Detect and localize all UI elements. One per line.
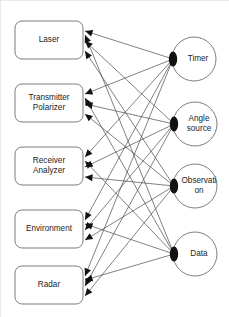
node-box-environment[interactable]: Environment xyxy=(15,210,83,248)
box-label-environment: Environment xyxy=(26,224,73,233)
edge-timer-to-transmitter-polarizer xyxy=(85,59,173,94)
node-box-laser[interactable]: Laser xyxy=(15,21,83,59)
box-label-radar: Radar xyxy=(38,280,61,289)
box-label-transmitter-polarizer: Transmitter xyxy=(28,93,69,102)
edge-observation-to-receiver-analyzer xyxy=(85,177,174,186)
edge-data-to-environment xyxy=(85,224,174,254)
circle-label-observation: Observati xyxy=(181,176,216,185)
box-label-laser: Laser xyxy=(39,35,60,44)
circle-label-timer: Timer xyxy=(188,54,209,63)
edge-data-to-laser xyxy=(85,35,174,254)
edge-hub-timer xyxy=(169,52,177,67)
circle-label-angle-source: source xyxy=(187,124,212,133)
node-box-transmitter-polarizer[interactable]: TransmitterPolarizer xyxy=(15,84,83,122)
box-label-transmitter-polarizer: Polarizer xyxy=(33,103,66,112)
edge-hub-angle-source xyxy=(170,117,178,132)
edge-observation-to-environment xyxy=(85,186,174,240)
diagram-canvas: LaserTransmitterPolarizerReceiverAnalyze… xyxy=(0,0,229,317)
edge-angle-source-to-environment xyxy=(85,124,174,230)
arrowhead-into-environment xyxy=(83,233,93,243)
edge-angle-source-to-receiver-analyzer xyxy=(85,124,174,167)
edge-observation-to-radar xyxy=(85,186,174,296)
graph-svg: LaserTransmitterPolarizerReceiverAnalyze… xyxy=(1,1,229,317)
edge-timer-to-laser xyxy=(85,31,173,59)
edge-timer-to-radar xyxy=(85,59,173,276)
arrowhead-into-receiver-analyzer xyxy=(85,174,93,182)
node-box-receiver-analyzer[interactable]: ReceiverAnalyzer xyxy=(15,147,83,185)
arrowhead-into-laser xyxy=(82,49,92,59)
node-circle-observation[interactable]: Observation xyxy=(173,164,217,208)
node-circle-timer[interactable]: Timer xyxy=(172,37,216,81)
circle-label-observation: on xyxy=(194,186,204,195)
edge-data-to-radar xyxy=(85,254,174,280)
node-layer: LaserTransmitterPolarizerReceiverAnalyze… xyxy=(15,21,217,304)
node-box-radar[interactable]: Radar xyxy=(15,266,83,304)
edge-data-to-transmitter-polarizer xyxy=(85,98,174,254)
edge-angle-source-to-laser xyxy=(85,41,174,124)
box-label-receiver-analyzer: Receiver xyxy=(33,156,66,165)
arrowhead-into-radar xyxy=(82,288,92,298)
arrowhead-into-transmitter-polarizer xyxy=(84,88,93,97)
node-circle-data[interactable]: Data xyxy=(173,232,217,276)
edge-timer-to-receiver-analyzer xyxy=(85,59,173,157)
box-label-receiver-analyzer: Analyzer xyxy=(33,166,65,175)
edge-angle-source-to-radar xyxy=(85,124,174,286)
edge-layer xyxy=(85,31,174,296)
circle-label-angle-source: Angle xyxy=(189,114,210,123)
arrowhead-into-transmitter-polarizer xyxy=(83,111,93,121)
edge-hub-data xyxy=(170,247,178,262)
edge-hub-observation xyxy=(170,179,178,194)
edge-timer-to-environment xyxy=(85,59,173,220)
circle-label-data: Data xyxy=(190,249,208,258)
node-circle-angle-source[interactable]: Anglesource xyxy=(173,102,217,146)
